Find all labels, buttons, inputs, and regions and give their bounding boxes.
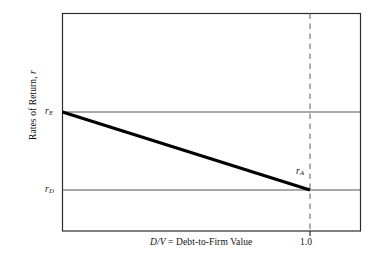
annotation-re: rE <box>45 106 53 118</box>
annotation-ra: rA <box>296 166 304 178</box>
y-axis-title-symbol: r <box>28 70 38 74</box>
x-tick-label-1-0: 1.0 <box>300 236 312 248</box>
annotation-rd-subscript: D <box>49 187 54 194</box>
y-axis-title: Rates of Return, r <box>26 25 40 185</box>
x-axis-title-symbol: D/V <box>150 237 166 247</box>
plot-frame <box>63 14 361 232</box>
x-axis-title-text: = Debt-to-Firm Value <box>166 237 253 247</box>
y-axis-title-text: Rates of Return, <box>28 74 38 140</box>
chart-figure: Rates of Return, r D/V = Debt-to-Firm Va… <box>0 0 376 259</box>
annotation-rd: rD <box>45 184 54 196</box>
chart-canvas <box>0 0 376 259</box>
annotation-ra-subscript: A <box>300 169 304 176</box>
annotation-re-subscript: E <box>49 109 53 116</box>
x-axis-title: D/V = Debt-to-Firm Value <box>150 236 252 248</box>
